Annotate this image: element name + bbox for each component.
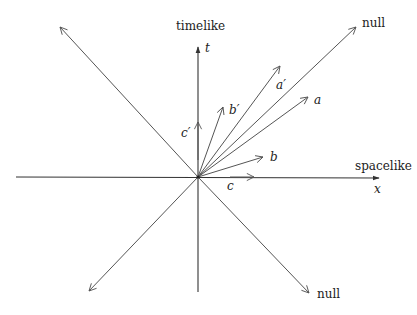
- origin-point: [196, 175, 199, 178]
- vector-a-prime-label: a′: [276, 78, 286, 92]
- vector-a: [198, 97, 308, 177]
- null-line-lower-right: [198, 177, 309, 293]
- x-axis-symbol: x: [374, 182, 381, 196]
- t-axis-symbol: t: [205, 41, 210, 55]
- null-line-lower-left: [89, 177, 198, 291]
- spacetime-diagram: timelike t spacelike x null null a′ a b′…: [0, 0, 417, 315]
- spacelike-label: spacelike: [355, 159, 412, 173]
- timelike-label: timelike: [176, 19, 225, 33]
- vector-a-prime: [198, 66, 280, 177]
- vector-a-label: a: [314, 93, 321, 107]
- vector-c-prime-label: c′: [181, 126, 191, 140]
- vector-b-label: b: [270, 150, 278, 164]
- null-label-lower: null: [317, 287, 340, 301]
- vector-b-prime-label: b′: [229, 103, 240, 117]
- null-line-upper-left: [60, 27, 198, 177]
- vector-c-label: c: [227, 179, 234, 193]
- vector-b-prime: [198, 107, 223, 177]
- vector-b: [198, 157, 263, 177]
- null-label-upper: null: [362, 16, 385, 30]
